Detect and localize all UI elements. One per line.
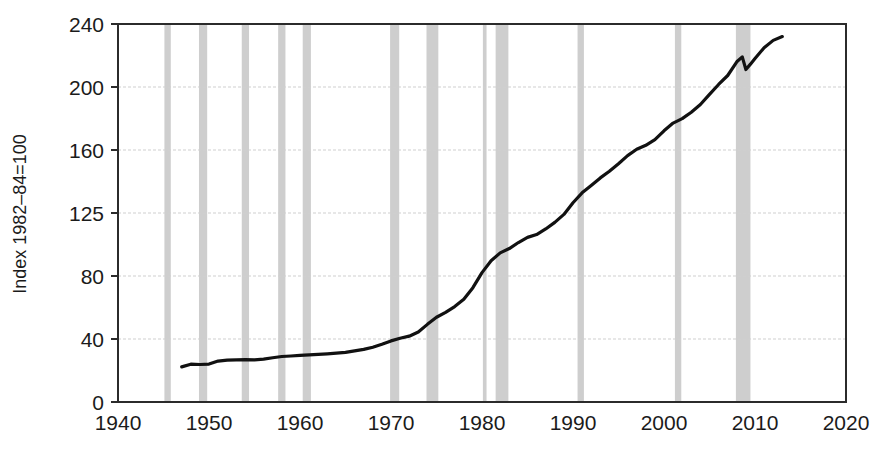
y-tick-label: 40 — [81, 328, 104, 351]
x-tick-label: 1980 — [459, 411, 506, 434]
x-tick-label: 1970 — [368, 411, 415, 434]
x-tick-label: 2020 — [823, 411, 870, 434]
y-axis-title: Index 1982–84=100 — [10, 134, 30, 294]
y-tick-label: 80 — [81, 265, 104, 288]
chart-figure: 04080125160200240 1940195019601970198019… — [0, 0, 887, 464]
recession-band — [496, 24, 509, 402]
x-tick-label: 1950 — [186, 411, 233, 434]
x-tick-label: 1940 — [95, 411, 142, 434]
x-tick-label: 1960 — [277, 411, 324, 434]
x-tick-label: 1990 — [550, 411, 597, 434]
y-tick-label: 200 — [69, 76, 104, 99]
x-tick-label: 2010 — [732, 411, 779, 434]
y-tick-label: 160 — [69, 139, 104, 162]
x-tick-label: 2000 — [641, 411, 688, 434]
x-tick-labels: 194019501960197019801990200020102020 — [95, 411, 870, 434]
cpi-index-line-chart: 04080125160200240 1940195019601970198019… — [0, 0, 887, 464]
chart-background — [0, 0, 887, 464]
y-tick-label: 240 — [69, 13, 104, 36]
y-tick-label: 125 — [69, 202, 104, 225]
